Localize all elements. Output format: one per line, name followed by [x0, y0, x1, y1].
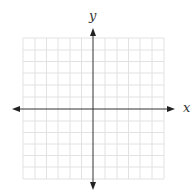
x-axis-right-arrow-icon [167, 106, 175, 112]
y-axis-up-arrow-icon [90, 28, 96, 36]
x-axis-left-arrow-icon [12, 106, 20, 112]
y-axis-down-arrow-icon [90, 182, 96, 190]
x-axis-label: x [183, 100, 190, 115]
y-axis-label: y [89, 8, 96, 23]
coordinate-plane [0, 0, 196, 193]
